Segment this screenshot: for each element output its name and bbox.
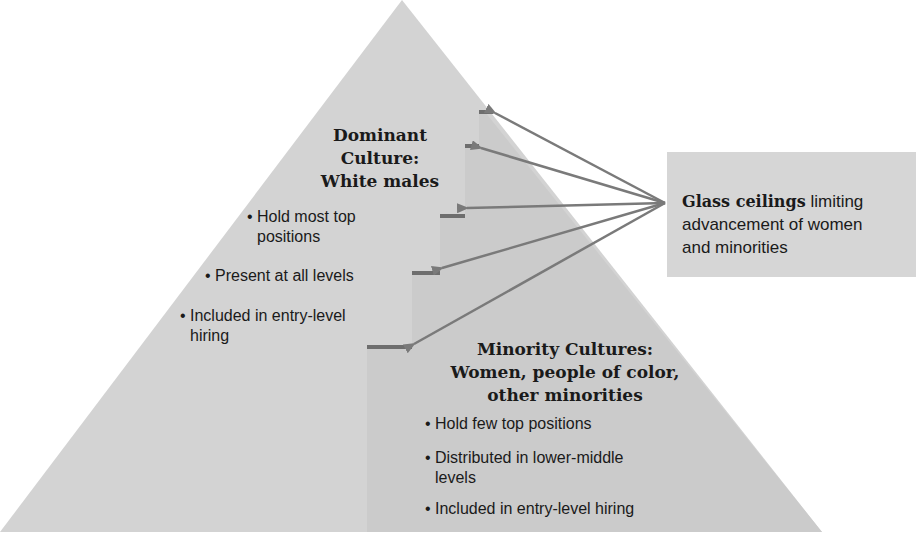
dominant-culture-title: Dominant Culture: White males: [290, 124, 470, 193]
minority-bullet: •Distributed in lower-middle levels: [425, 448, 705, 488]
dominant-title-line: White males: [290, 170, 470, 193]
bullet-icon: •: [205, 266, 215, 286]
dominant-bullet: •Present at all levels: [205, 266, 425, 286]
callout-strong-text: Glass ceilings: [682, 192, 806, 211]
minority-title-line: other minorities: [400, 384, 730, 407]
minority-cultures-title: Minority Cultures: Women, people of colo…: [400, 338, 730, 407]
dominant-title-line: Dominant: [290, 124, 470, 147]
minority-title-line: Women, people of color,: [400, 361, 730, 384]
minority-title-line: Minority Cultures:: [400, 338, 730, 361]
dominant-bullet: •Hold most top positions: [247, 207, 422, 247]
glass-ceilings-callout: Glass ceilings limiting advancement of w…: [667, 152, 916, 277]
bullet-icon: •: [425, 499, 435, 519]
bullet-icon: •: [425, 448, 435, 468]
minority-bullet: •Included in entry-level hiring: [425, 499, 715, 519]
minority-bullet: •Hold few top positions: [425, 414, 705, 434]
bullet-icon: •: [180, 306, 190, 326]
dominant-bullet: •Included in entry-level hiring: [180, 306, 400, 346]
ceiling-bar-3: [440, 214, 465, 218]
bullet-icon: •: [247, 207, 257, 227]
ceiling-bar-1: [479, 110, 493, 114]
bullet-icon: •: [425, 414, 435, 434]
dominant-title-line: Culture:: [290, 147, 470, 170]
callout-text: Glass ceilings limiting advancement of w…: [682, 190, 904, 259]
